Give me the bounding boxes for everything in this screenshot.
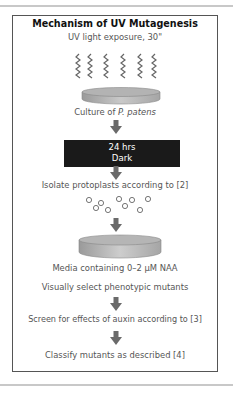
down-arrow-icon bbox=[110, 120, 122, 134]
petri-dish-icon bbox=[77, 233, 163, 261]
step-media: Media containing 0–2 µM NAA bbox=[12, 263, 218, 273]
step-screen: Screen for effects of auxin according to… bbox=[12, 314, 218, 324]
step-uv-exposure: UV light exposure, 30" bbox=[12, 32, 218, 42]
uv-waves-icon bbox=[70, 52, 170, 82]
step-classify: Classify mutants as described [4] bbox=[12, 350, 218, 360]
culture-label: Culture of bbox=[74, 107, 118, 117]
dark-incubation-box: 24 hrs Dark bbox=[64, 140, 180, 167]
bottom-rule bbox=[0, 384, 233, 386]
incubation-condition: Dark bbox=[64, 153, 180, 164]
down-arrow-icon bbox=[110, 331, 122, 345]
petri-dish-icon bbox=[80, 86, 162, 106]
down-arrow-icon bbox=[110, 297, 122, 311]
step-culture: Culture of P. patens bbox=[12, 107, 218, 117]
down-arrow-icon bbox=[110, 166, 122, 180]
diagram-title: Mechanism of UV Mutagenesis bbox=[12, 18, 218, 29]
down-arrow-icon bbox=[110, 218, 122, 232]
culture-species: P. patens bbox=[118, 107, 156, 117]
step-isolate: Isolate protoplasts according to [2] bbox=[12, 180, 218, 190]
top-rule bbox=[0, 5, 233, 7]
step-select: Visually select phenotypic mutants bbox=[12, 282, 218, 292]
incubation-duration: 24 hrs bbox=[64, 142, 180, 153]
protoplasts-icon bbox=[80, 192, 160, 216]
